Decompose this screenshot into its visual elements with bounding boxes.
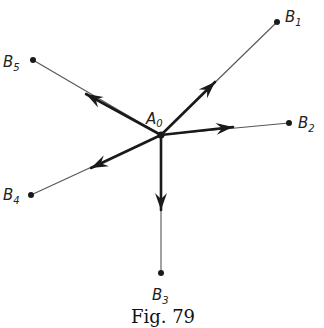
center-label: A0 (145, 110, 163, 129)
label-B5: B5 (3, 53, 20, 73)
label-B3: B3 (152, 286, 169, 306)
label-B1: B1 (285, 8, 302, 28)
label-B4: B4 (3, 186, 20, 206)
point-B2 (286, 120, 292, 126)
point-B5 (30, 57, 36, 63)
point-A0 (158, 132, 165, 139)
figure-caption: Fig. 79 (131, 306, 195, 327)
label-B2: B2 (298, 114, 315, 134)
vector-A0-B1 (161, 82, 215, 135)
diagram-canvas: B1B2B3B4B5 A0 Fig. 79 (0, 0, 324, 328)
point-B3 (158, 270, 164, 276)
vector-diagram: B1B2B3B4B5 A0 Fig. 79 (0, 0, 324, 328)
point-B1 (274, 19, 280, 25)
vector-arrows (86, 82, 233, 210)
point-B4 (28, 192, 34, 198)
point-labels: B1B2B3B4B5 (3, 8, 315, 306)
arrowhead-icon (86, 94, 104, 107)
vector-A0-B4 (91, 135, 161, 168)
